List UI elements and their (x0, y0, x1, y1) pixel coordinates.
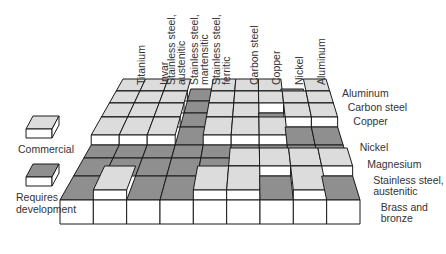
column-label: Aluminum (316, 38, 326, 85)
development-cell (113, 145, 147, 158)
development-cell (172, 145, 204, 158)
commercial-cell (193, 166, 228, 190)
commercial-cell (318, 148, 353, 166)
cell-front-face (147, 135, 175, 145)
commercial-cell (203, 117, 232, 135)
legend-label-requires-development: Requires development (16, 191, 76, 215)
development-cell (175, 127, 206, 145)
commercial-cell (284, 103, 312, 117)
development-cell (311, 127, 343, 145)
commercial-cell (229, 148, 260, 166)
commercial-cell (306, 91, 333, 103)
legend-label-commercial: Commercial (18, 143, 74, 155)
base-front-face (260, 200, 293, 224)
column-label: Copper (271, 51, 281, 85)
cell-front-face (311, 117, 337, 127)
commercial-cell (159, 91, 187, 103)
commercial-cell (289, 148, 322, 166)
base-front-face (293, 200, 326, 224)
base-front-face (127, 200, 160, 224)
cell-front-face (259, 135, 287, 145)
base-front-face (93, 200, 126, 224)
column-label: Carbon steel (249, 25, 259, 85)
cell-front-face (93, 190, 126, 200)
commercial-cell (206, 103, 233, 117)
row-label: Stainless steel, austenitic (373, 175, 444, 197)
row-label: Aluminum (342, 88, 389, 99)
cell-front-face (260, 166, 291, 176)
commercial-cell (234, 91, 259, 103)
row-label: Copper (353, 116, 387, 127)
commercial-cell (259, 148, 290, 166)
development-cell (160, 176, 198, 200)
cell-front-face (322, 166, 353, 176)
row-label: Magnesium (367, 159, 421, 170)
commercial-cell (134, 91, 163, 103)
cell-front-face (285, 117, 311, 127)
commercial-cell (209, 91, 235, 103)
cell-front-face (203, 135, 231, 145)
column-label: Stainless steel, austenitic (166, 14, 186, 85)
cell-front-face (231, 135, 259, 145)
row-label: Carbon steel (348, 102, 408, 113)
column-label: Nickel (294, 56, 304, 85)
column-label: Titanium (136, 45, 146, 85)
cell-front-face (259, 103, 284, 113)
commercial-cell (154, 103, 184, 117)
commercial-cell (231, 117, 259, 135)
cell-front-face (91, 135, 119, 145)
development-cell (142, 145, 175, 158)
column-label: Stainless steel, ferritic (211, 14, 231, 85)
cell-front-face (119, 135, 147, 145)
row-label: Brass and bronze (381, 202, 428, 224)
development-cell (136, 158, 172, 176)
commercial-cell (282, 91, 308, 103)
compatibility-diagram: TitaniumInvarStainless steel, austenitic… (0, 0, 446, 254)
development-cell (285, 127, 315, 145)
cell-front-face (293, 190, 326, 200)
base-front-face (327, 200, 360, 224)
cell-front-face (227, 190, 260, 200)
commercial-cell (233, 103, 259, 117)
development-cell (167, 158, 201, 176)
column-label: Stainless steel, martensitic (189, 14, 209, 85)
commercial-cell (259, 91, 284, 103)
development-cell (201, 145, 231, 158)
commercial-cell (227, 166, 260, 190)
base-front-face (193, 200, 226, 224)
commercial-cell (291, 166, 327, 190)
development-cell (260, 176, 294, 200)
cell-front-face (193, 190, 226, 200)
development-cell (322, 176, 360, 200)
commercial-cell (308, 103, 337, 117)
commercial-cell (259, 117, 287, 135)
base-front-face (227, 200, 260, 224)
base-front-face (160, 200, 193, 224)
row-label: Nickel (360, 142, 389, 153)
